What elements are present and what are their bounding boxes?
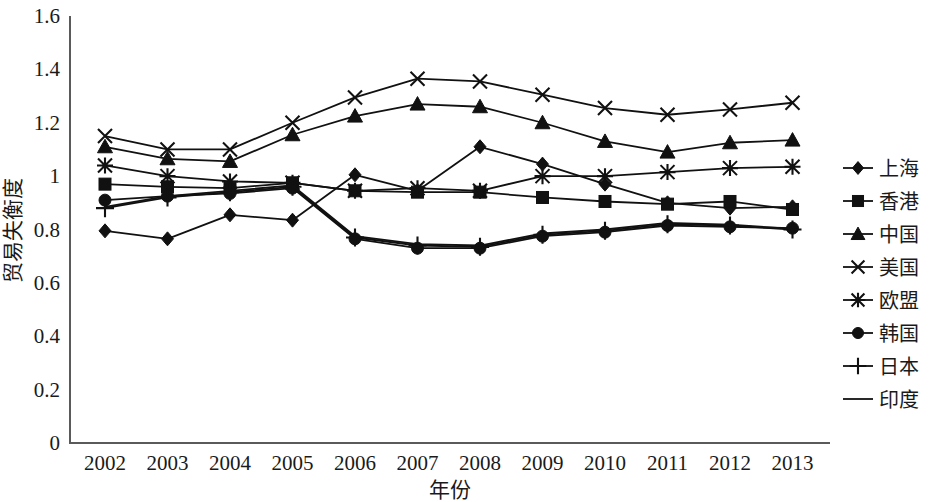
y-tick-label: 1.4: [34, 57, 61, 81]
y-tick-label: 0.6: [34, 271, 60, 295]
marker-plus: [596, 222, 614, 240]
marker-diamond: [224, 208, 236, 222]
marker-cross-x: [348, 90, 362, 104]
legend-label: 日本: [879, 356, 919, 378]
legend-label: 香港: [879, 191, 919, 213]
marker-square: [537, 191, 549, 203]
legend-item-美国[interactable]: 美国: [843, 257, 919, 279]
marker-triangle: [785, 133, 800, 147]
legend-label: 中国: [879, 224, 919, 246]
marker-diamond: [852, 162, 863, 175]
marker-diamond: [162, 232, 174, 246]
marker-diamond: [474, 140, 486, 154]
marker-asterisk: [410, 180, 426, 196]
x-axis-tick-labels: 2002200320042005200620072008200920102011…: [84, 451, 814, 475]
y-tick-label: 0.4: [34, 324, 61, 348]
legend-label: 欧盟: [879, 290, 919, 312]
x-tick-label: 2012: [709, 451, 751, 475]
marker-asterisk: [160, 168, 176, 184]
marker-square: [852, 195, 863, 206]
marker-diamond: [349, 168, 361, 182]
series-polyline: [105, 187, 793, 247]
x-tick-label: 2006: [334, 451, 376, 475]
x-axis-title: 年份: [429, 478, 471, 502]
x-tick-label: 2003: [147, 451, 189, 475]
y-tick-label: 0.8: [34, 218, 60, 242]
marker-asterisk: [347, 183, 363, 199]
x-tick-label: 2011: [647, 451, 688, 475]
legend-item-印度[interactable]: 印度: [843, 389, 919, 411]
marker-asterisk: [472, 183, 488, 199]
series-美国: [98, 72, 800, 157]
legend-item-韩国[interactable]: 韩国: [843, 323, 919, 345]
marker-plus: [471, 238, 489, 256]
marker-asterisk: [97, 157, 113, 173]
legend-label: 美国: [879, 257, 919, 279]
marker-asterisk: [535, 168, 551, 184]
marker-circle: [852, 327, 863, 338]
marker-asterisk: [597, 168, 613, 184]
y-tick-label: 0: [50, 431, 61, 455]
x-tick-label: 2009: [522, 451, 564, 475]
y-axis-title: 贸易失衡度: [1, 178, 25, 283]
marker-cross-x: [536, 88, 550, 102]
marker-plus: [96, 199, 114, 217]
marker-plus: [850, 358, 867, 375]
series-layer: [96, 72, 802, 256]
legend-label: 印度: [879, 389, 919, 411]
series-中国: [98, 97, 801, 168]
y-tick-label: 0.2: [34, 378, 60, 402]
legend-item-中国[interactable]: 中国: [843, 224, 919, 246]
chart-canvas: 00.20.40.60.811.21.41.6 2002200320042005…: [0, 0, 930, 502]
legend-label: 韩国: [879, 323, 919, 345]
marker-asterisk: [851, 293, 866, 308]
marker-square: [599, 195, 611, 207]
marker-square: [787, 203, 799, 215]
marker-square: [662, 198, 674, 210]
x-tick-label: 2005: [272, 451, 314, 475]
trade-imbalance-chart: 00.20.40.60.811.21.41.6 2002200320042005…: [0, 0, 930, 502]
chart-legend: 上海香港中国美国欧盟韩国日本印度: [843, 158, 919, 411]
legend-item-香港[interactable]: 香港: [843, 191, 919, 213]
marker-diamond: [99, 224, 111, 238]
marker-asterisk: [785, 159, 801, 175]
y-tick-label: 1.2: [34, 111, 60, 135]
marker-plus: [784, 221, 802, 239]
y-tick-label: 1.6: [34, 4, 60, 28]
x-tick-label: 2007: [397, 451, 439, 475]
marker-diamond: [287, 213, 299, 227]
y-tick-label: 1: [50, 164, 61, 188]
x-tick-label: 2013: [772, 451, 814, 475]
legend-item-上海[interactable]: 上海: [843, 158, 919, 180]
x-tick-label: 2004: [209, 451, 252, 475]
marker-plus: [409, 237, 427, 255]
legend-item-欧盟[interactable]: 欧盟: [843, 290, 919, 312]
series-polyline: [105, 79, 793, 150]
series-polyline: [105, 188, 793, 248]
marker-asterisk: [660, 164, 676, 180]
series-香港: [99, 177, 799, 216]
x-tick-label: 2008: [459, 451, 501, 475]
y-axis-tick-labels: 00.20.40.60.811.21.41.6: [34, 4, 61, 455]
x-tick-label: 2002: [84, 451, 126, 475]
legend-label: 上海: [879, 158, 919, 180]
legend-item-日本[interactable]: 日本: [843, 356, 919, 378]
marker-square: [724, 195, 736, 207]
x-tick-label: 2010: [584, 451, 626, 475]
marker-asterisk: [722, 160, 738, 176]
marker-square: [99, 178, 111, 190]
marker-triangle: [410, 97, 425, 111]
